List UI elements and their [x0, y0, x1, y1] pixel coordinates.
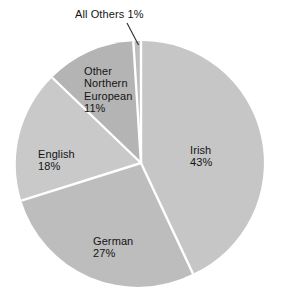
slice-label-english-percent: 18%	[38, 160, 75, 173]
slice-label-english: English 18%	[38, 135, 75, 185]
slice-label-irish-percent: 43%	[190, 156, 212, 169]
slice-label-irish: Irish 43%	[190, 131, 212, 181]
slice-label-irish-name: Irish	[190, 144, 211, 156]
slice-label-german-percent: 27%	[93, 247, 133, 260]
slice-label-english-name: English	[38, 148, 75, 160]
slice-label-other-northern-european-name: Other Northern European	[84, 65, 133, 102]
pie-chart: Irish 43% German 27% English 18% Other N…	[0, 0, 287, 300]
slice-label-other-northern-european-percent: 11%	[84, 102, 133, 115]
slice-label-other-northern-european: Other Northern European 11%	[84, 52, 133, 127]
slice-label-german-name: German	[93, 235, 133, 247]
slice-label-german: German 27%	[93, 222, 133, 272]
slice-label-all-others: All Others 1%	[75, 8, 144, 21]
